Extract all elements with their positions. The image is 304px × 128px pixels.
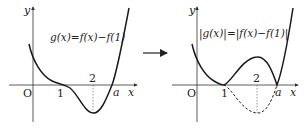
right-y-label: y bbox=[188, 4, 196, 17]
right-equation: |g(x)|=|f(x)−f(1)| bbox=[199, 27, 288, 41]
left-tick-1: 1 bbox=[57, 87, 64, 100]
diagram-canvas: y x O 1 2 a g(x)=f(x)−f(1) y x O 1 2 a |… bbox=[0, 0, 304, 128]
right-tick-1: 1 bbox=[221, 87, 228, 100]
left-y-label: y bbox=[23, 4, 31, 17]
right-curve-abs-g bbox=[192, 8, 293, 85]
left-tick-2: 2 bbox=[89, 72, 96, 85]
left-graph: y x O 1 2 a g(x)=f(x)−f(1) bbox=[9, 4, 137, 122]
right-tick-2: 2 bbox=[253, 72, 260, 85]
left-tick-a: a bbox=[113, 86, 120, 99]
right-x-label: x bbox=[290, 86, 297, 99]
right-origin-label: O bbox=[187, 87, 196, 100]
right-curve-original-dashed bbox=[224, 85, 277, 113]
left-equation: g(x)=f(x)−f(1) bbox=[50, 31, 125, 43]
left-x-label: x bbox=[128, 86, 135, 99]
left-origin-label: O bbox=[23, 87, 32, 100]
right-graph: y x O 1 2 a |g(x)|=|f(x)−f(1)| bbox=[172, 4, 298, 122]
